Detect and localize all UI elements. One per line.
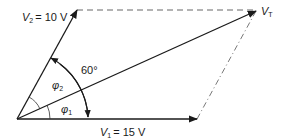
angle-60-label: 60° — [81, 64, 98, 76]
vt-label: VT — [261, 5, 273, 18]
v1-label: V1= 15 V — [100, 126, 146, 139]
vt-phasor — [17, 11, 256, 119]
phasor-diagram: V2= 10 V V1= 15 V VT 60° φ2 φ1 — [0, 0, 288, 140]
phi1-arc — [47, 105, 50, 119]
phi2-arc — [29, 97, 40, 109]
dashed-right-line — [197, 11, 256, 119]
phi2-label: φ2 — [52, 79, 63, 92]
v2-label: V2= 10 V — [22, 11, 68, 24]
phi1-label: φ1 — [61, 103, 72, 116]
